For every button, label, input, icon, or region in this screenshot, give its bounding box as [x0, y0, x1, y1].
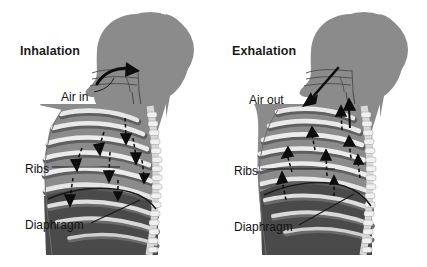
diaphragm-label-inhalation: Diaphragm	[25, 218, 84, 232]
panel-inhalation: Inhalation Air in Ribs Diaphragm	[0, 0, 213, 267]
air-in-label: Air in	[61, 90, 88, 104]
ribs-label-inhalation: Ribs	[25, 162, 49, 176]
panel-title-exhalation: Exhalation	[232, 44, 296, 58]
panel-title-inhalation: Inhalation	[20, 44, 80, 58]
air-out-label: Air out	[249, 93, 284, 107]
breathing-diagram: Inhalation Air in Ribs Diaphragm	[0, 0, 427, 267]
ribs-label-exhalation: Ribs	[234, 164, 258, 178]
diaphragm-label-exhalation: Diaphragm	[234, 220, 293, 234]
panel-exhalation: Exhalation Air out Ribs Diaphragm	[214, 0, 427, 267]
